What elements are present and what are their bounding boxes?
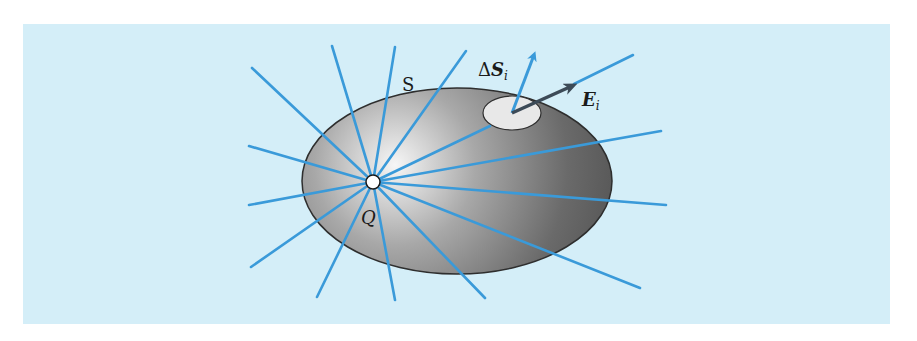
gauss-law-figure: S Q ΔSi Ei	[0, 0, 917, 341]
area-subscript: i	[504, 69, 508, 83]
closed-surface	[302, 88, 612, 274]
field-subscript: i	[596, 99, 600, 113]
charge-label: Q	[361, 207, 376, 228]
point-charge	[366, 175, 380, 189]
surface-label: S	[402, 74, 414, 95]
area-symbol: S	[491, 59, 504, 80]
field-symbol: E	[581, 89, 596, 110]
area-element-label: ΔSi	[478, 59, 508, 83]
delta-symbol: Δ	[478, 59, 491, 80]
